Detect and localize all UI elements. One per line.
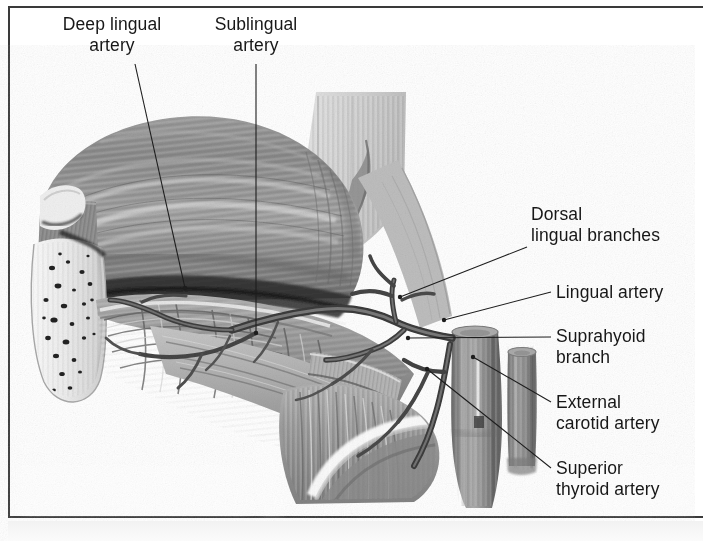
label-deep-lingual-artery: Deep lingual artery xyxy=(42,14,182,56)
below-figure-strip xyxy=(8,521,703,541)
label-external-carotid-artery: External carotid artery xyxy=(556,392,706,434)
label-dorsal-lingual-branches: Dorsal lingual branches xyxy=(531,204,695,246)
label-lingual-artery: Lingual artery xyxy=(556,282,696,303)
external-carotid-artery-vessel xyxy=(446,326,508,516)
superior-thyroid-artery-vessel xyxy=(503,346,541,475)
pharyngeal-wall xyxy=(358,160,452,328)
label-suprahyoid-branch: Suprahyoid branch xyxy=(556,326,696,368)
mandible-bone xyxy=(26,236,110,416)
label-superior-thyroid-artery: Superior thyroid artery xyxy=(556,458,706,500)
label-sublingual-artery: Sublingual artery xyxy=(196,14,316,56)
